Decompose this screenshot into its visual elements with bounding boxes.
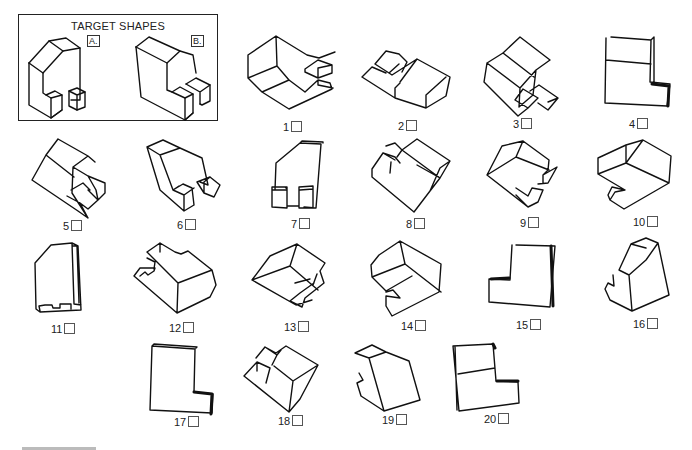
shape-15-edge [491, 246, 553, 306]
shape-4-drawing [605, 37, 670, 106]
shape-7-drawing [272, 141, 323, 208]
option-7-number: 7 [291, 218, 297, 230]
option-19: 19 [382, 413, 407, 426]
option-3-checkbox[interactable] [521, 118, 532, 129]
option-13: 13 [284, 320, 309, 333]
option-12-number: 12 [169, 322, 181, 334]
shape-20-edge [493, 344, 518, 381]
shape-10-drawing [598, 140, 671, 209]
shape-6-drawing [147, 140, 220, 211]
option-8-checkbox[interactable] [414, 218, 425, 229]
shape-4-edge [652, 84, 669, 106]
option-12: 12 [169, 321, 194, 334]
option-10-checkbox[interactable] [647, 216, 658, 227]
option-13-number: 13 [284, 321, 296, 333]
option-9-number: 9 [520, 217, 526, 229]
option-6: 6 [177, 218, 196, 231]
option-11-number: 11 [51, 323, 62, 335]
shape-drawings [0, 0, 692, 450]
option-4-number: 4 [629, 118, 635, 130]
shape-14-drawing [371, 241, 441, 316]
option-4: 4 [629, 117, 648, 130]
option-3: 3 [513, 117, 532, 130]
option-5-checkbox[interactable] [71, 220, 82, 231]
option-20-checkbox[interactable] [498, 413, 509, 424]
option-15: 15 [516, 318, 541, 331]
option-7: 7 [291, 217, 310, 230]
option-17: 17 [174, 415, 199, 428]
option-17-checkbox[interactable] [188, 416, 199, 427]
option-10-number: 10 [633, 216, 645, 228]
option-3-number: 3 [513, 118, 519, 130]
shape-8-drawing [372, 139, 450, 212]
shape-1-drawing [248, 36, 335, 109]
option-1-checkbox[interactable] [291, 121, 302, 132]
option-16-checkbox[interactable] [647, 318, 658, 329]
option-8: 8 [406, 217, 425, 230]
option-19-checkbox[interactable] [396, 414, 407, 425]
option-11-checkbox[interactable] [64, 323, 75, 334]
shape-12-drawing [134, 243, 216, 313]
option-8-number: 8 [406, 218, 412, 230]
option-16-number: 16 [633, 318, 645, 330]
shape-15-drawing [489, 245, 555, 307]
shape-5-drawing [32, 139, 105, 218]
option-14-checkbox[interactable] [415, 320, 426, 331]
option-5-number: 5 [63, 220, 69, 232]
shape-20-drawing [453, 344, 519, 411]
option-1-number: 1 [283, 121, 289, 133]
option-19-number: 19 [382, 414, 394, 426]
option-18-checkbox[interactable] [292, 415, 303, 426]
shape-17-drawing [150, 344, 213, 413]
shape-17-edge [194, 392, 212, 414]
option-6-number: 6 [177, 219, 183, 231]
option-1: 1 [283, 120, 302, 133]
option-15-checkbox[interactable] [530, 319, 541, 330]
option-15-number: 15 [516, 319, 528, 331]
option-18-number: 18 [278, 415, 290, 427]
option-20: 20 [484, 412, 509, 425]
option-2-number: 2 [398, 120, 404, 132]
option-12-checkbox[interactable] [183, 322, 194, 333]
option-6-checkbox[interactable] [185, 219, 196, 230]
option-16: 16 [633, 317, 658, 330]
option-18: 18 [278, 414, 303, 427]
shape-9-drawing [487, 141, 557, 207]
option-10: 10 [633, 215, 658, 228]
option-20-number: 20 [484, 413, 496, 425]
option-14-number: 14 [401, 320, 413, 332]
shape-2-drawing [362, 51, 450, 108]
target-shape-b-drawing [136, 37, 210, 120]
option-14: 14 [401, 319, 426, 332]
option-9-checkbox[interactable] [528, 217, 539, 228]
target-shape-a-drawing [29, 38, 85, 118]
option-7-checkbox[interactable] [299, 218, 310, 229]
option-5: 5 [63, 219, 82, 232]
option-13-checkbox[interactable] [298, 321, 309, 332]
option-4-checkbox[interactable] [637, 118, 648, 129]
option-2-checkbox[interactable] [406, 120, 417, 131]
shape-11-drawing [35, 243, 81, 312]
option-11: 11 [51, 322, 75, 335]
shape-13-drawing [252, 244, 325, 307]
shape-3-drawing [484, 37, 558, 116]
shape-18-drawing [244, 346, 318, 412]
option-9: 9 [520, 216, 539, 229]
shape-19-drawing [355, 345, 420, 411]
option-2: 2 [398, 119, 417, 132]
shape-16-drawing [605, 238, 669, 311]
option-17-number: 17 [174, 416, 186, 428]
